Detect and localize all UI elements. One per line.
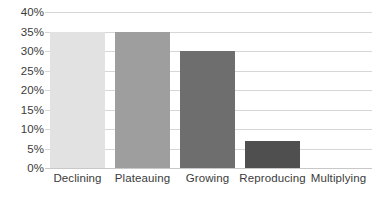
y-tick-label: 25% bbox=[21, 66, 44, 78]
bars-layer bbox=[45, 12, 372, 168]
y-tick-label: 30% bbox=[21, 46, 44, 58]
y-tick-label: 35% bbox=[21, 27, 44, 39]
bar-slot-plateauing bbox=[115, 12, 170, 168]
y-tick-label: 10% bbox=[21, 124, 44, 136]
y-tick-label: 15% bbox=[21, 105, 44, 117]
y-tick-label: 20% bbox=[21, 85, 44, 97]
bar-declining[interactable] bbox=[50, 32, 105, 169]
bar-slot-growing bbox=[180, 12, 235, 168]
x-tick-label-plateauing: Plateauing bbox=[105, 173, 180, 185]
y-tick-label: 40% bbox=[21, 7, 44, 19]
gridline-0-baseline bbox=[45, 168, 372, 169]
bar-slot-reproducing bbox=[245, 12, 300, 168]
bar-slot-multiplying bbox=[310, 12, 365, 168]
bar-slot-declining bbox=[50, 12, 105, 168]
bar-reproducing[interactable] bbox=[245, 141, 300, 168]
bar-growing[interactable] bbox=[180, 51, 235, 168]
x-axis: Declining Plateauing Growing Reproducing… bbox=[45, 173, 372, 197]
x-tick-label-multiplying: Multiplying bbox=[298, 173, 379, 185]
x-tick-label-declining: Declining bbox=[40, 173, 115, 185]
bar-plateauing[interactable] bbox=[115, 32, 170, 169]
y-tick-label: 5% bbox=[27, 144, 44, 156]
bar-chart: 40% 35% 30% 25% 20% 15% 10% 5% 0% Declin… bbox=[0, 0, 383, 206]
